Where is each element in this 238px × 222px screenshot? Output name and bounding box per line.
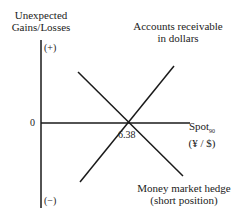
zero-marker: 0 [30,117,35,129]
plus-marker: (+) [44,42,56,54]
accounts-receivable-line [80,66,174,182]
series1-label-line2: in dollars [128,32,228,44]
series-label-money-market-hedge: Money market hedge (short position) [134,182,234,206]
x-axis-label-text: Spot [189,120,209,132]
series1-label-line1: Accounts receivable [128,20,228,32]
x-axis-label: Spot90 (¥ / $) [178,120,226,149]
series2-label-line1: Money market hedge [134,182,234,194]
crossing-value: 6.38 [118,129,136,141]
minus-marker: (−) [44,195,56,207]
y-axis-label-line2: Gains/Losses [4,21,78,33]
money-market-hedge-line [78,72,183,176]
x-axis-label-main: Spot90 [178,120,226,137]
x-axis-label-sub: 90 [209,128,215,134]
y-axis-label-line1: Unexpected [4,9,78,21]
y-axis-label: Unexpected Gains/Losses [4,9,78,33]
series2-label-line2: (short position) [134,194,234,206]
series-label-accounts-receivable: Accounts receivable in dollars [128,20,228,44]
x-axis-units: (¥ / $) [178,137,226,149]
